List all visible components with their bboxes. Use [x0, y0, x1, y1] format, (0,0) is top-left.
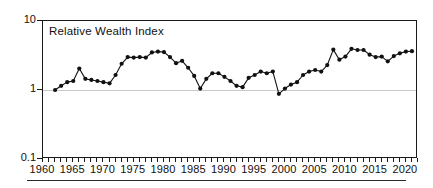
x-tick-mark [121, 158, 122, 162]
x-tick-mark [375, 158, 376, 162]
x-tick-label: 2020 [385, 163, 425, 175]
data-point-marker [174, 61, 178, 65]
x-tick-mark [369, 158, 370, 162]
x-tick-mark [417, 158, 418, 162]
x-tick-mark [411, 158, 412, 162]
data-point-marker [289, 82, 293, 86]
data-point-marker [216, 71, 220, 75]
data-point-marker [392, 54, 396, 58]
data-point-marker [204, 77, 208, 81]
x-tick-mark [211, 158, 212, 162]
data-point-marker [192, 74, 196, 78]
x-tick-mark [266, 158, 267, 162]
data-point-marker [271, 69, 275, 73]
data-point-marker [83, 77, 87, 81]
series-line [55, 49, 412, 94]
data-point-marker [361, 48, 365, 52]
x-tick-mark [230, 158, 231, 162]
x-tick-mark [48, 158, 49, 162]
x-tick-mark [302, 158, 303, 162]
data-point-marker [319, 69, 323, 73]
data-point-marker [265, 71, 269, 75]
x-tick-mark [223, 158, 224, 162]
data-point-marker [71, 79, 75, 83]
y-tick-label: 1 [0, 82, 36, 94]
x-tick-mark [139, 158, 140, 162]
y-axis: 1010.1 [0, 0, 42, 188]
data-point-marker [222, 75, 226, 79]
x-tick-mark [181, 158, 182, 162]
x-tick-mark [102, 158, 103, 162]
data-point-marker [113, 73, 117, 77]
x-tick-mark [393, 158, 394, 162]
x-tick-mark [399, 158, 400, 162]
x-tick-mark [242, 158, 243, 162]
x-tick-mark [169, 158, 170, 162]
x-tick-mark [248, 158, 249, 162]
data-point-marker [247, 76, 251, 80]
data-point-marker [331, 48, 335, 52]
x-tick-mark [72, 158, 73, 162]
data-point-marker [301, 73, 305, 77]
x-tick-mark [381, 158, 382, 162]
data-point-marker [398, 51, 402, 55]
x-tick-mark [332, 158, 333, 162]
data-point-marker [295, 80, 299, 84]
x-tick-mark [272, 158, 273, 162]
data-point-marker [138, 55, 142, 59]
x-tick-mark [308, 158, 309, 162]
x-tick-mark [90, 158, 91, 162]
x-tick-mark [290, 158, 291, 162]
data-point-marker [107, 81, 111, 85]
data-point-marker [368, 53, 372, 57]
x-tick-mark [338, 158, 339, 162]
x-tick-mark [387, 158, 388, 162]
x-axis-labels: 1960196519701975198019851990199520002005… [0, 163, 433, 179]
x-tick-mark [363, 158, 364, 162]
data-point-marker [198, 86, 202, 90]
x-tick-mark [193, 158, 194, 162]
x-tick-mark [284, 158, 285, 162]
data-point-marker [150, 50, 154, 54]
data-point-marker [156, 50, 160, 54]
x-tick-mark [296, 158, 297, 162]
x-tick-mark [151, 158, 152, 162]
data-point-marker [120, 62, 124, 66]
data-point-marker [180, 59, 184, 63]
x-tick-mark [42, 158, 43, 162]
x-tick-mark [199, 158, 200, 162]
x-tick-mark [84, 158, 85, 162]
data-point-marker [126, 55, 130, 59]
x-tick-mark [278, 158, 279, 162]
data-point-marker [349, 47, 353, 51]
data-point-marker [59, 84, 63, 88]
data-point-marker [77, 66, 81, 70]
x-tick-mark [78, 158, 79, 162]
data-point-marker [410, 49, 414, 53]
data-point-marker [89, 78, 93, 82]
data-point-marker [355, 48, 359, 52]
x-tick-mark [357, 158, 358, 162]
data-point-marker [234, 84, 238, 88]
data-point-marker [307, 69, 311, 73]
x-tick-mark [157, 158, 158, 162]
data-point-marker [65, 80, 69, 84]
data-point-marker [162, 50, 166, 54]
data-point-marker [144, 55, 148, 59]
data-point-marker [325, 63, 329, 67]
x-tick-mark [115, 158, 116, 162]
x-tick-mark [326, 158, 327, 162]
y-tick-label: 10 [0, 13, 36, 25]
x-tick-mark [260, 158, 261, 162]
chart-annotation-label: Relative Wealth Index [49, 25, 164, 37]
data-point-marker [53, 88, 57, 92]
x-tick-mark [405, 158, 406, 162]
x-tick-mark [254, 158, 255, 162]
data-point-marker [259, 69, 263, 73]
data-point-marker [210, 71, 214, 75]
series-relative-wealth-index [43, 21, 418, 159]
x-tick-mark [96, 158, 97, 162]
x-tick-mark [187, 158, 188, 162]
x-tick-mark [314, 158, 315, 162]
data-point-marker [186, 66, 190, 70]
